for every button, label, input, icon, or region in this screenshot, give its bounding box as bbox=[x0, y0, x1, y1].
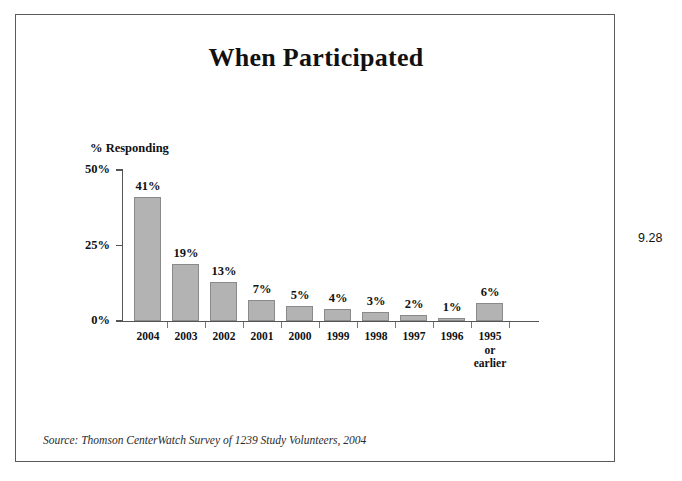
page-number: 9.28 bbox=[638, 231, 662, 245]
bar-value-label: 41% bbox=[123, 179, 173, 194]
y-axis-tick-label: 50% bbox=[64, 162, 110, 177]
x-axis-tick-mark bbox=[243, 322, 244, 328]
bar-group[interactable]: 2% bbox=[395, 121, 433, 321]
bar-chart-plot-area: 0%25%50%41%200419%200313%20027%20015%200… bbox=[16, 15, 616, 463]
y-axis-tick-mark bbox=[116, 169, 123, 170]
source-note: Source: Thomson CenterWatch Survey of 12… bbox=[43, 434, 366, 446]
x-axis-tick-mark bbox=[433, 322, 434, 328]
bar[interactable] bbox=[248, 300, 275, 321]
bar-value-label: 19% bbox=[161, 246, 211, 261]
bar-group[interactable]: 6% bbox=[471, 121, 509, 321]
bar[interactable] bbox=[286, 306, 313, 321]
y-axis-tick-mark bbox=[116, 320, 123, 321]
bar[interactable] bbox=[210, 282, 237, 321]
bar-group[interactable]: 3% bbox=[357, 121, 395, 321]
y-axis-tick-label: 0% bbox=[64, 313, 110, 328]
slide-frame: When Participated % Responding 0%25%50%4… bbox=[15, 14, 615, 462]
x-axis-tick-mark bbox=[167, 322, 168, 328]
x-axis-tick-label-line: 1995 bbox=[463, 330, 517, 344]
x-axis-tick-label-line: earlier bbox=[463, 357, 517, 371]
bar-group[interactable]: 19% bbox=[167, 121, 205, 321]
x-axis-line bbox=[122, 321, 539, 322]
bar[interactable] bbox=[438, 318, 465, 321]
bar[interactable] bbox=[476, 303, 503, 321]
x-axis-tick-mark bbox=[471, 322, 472, 328]
y-axis-tick-label: 25% bbox=[64, 238, 110, 253]
x-axis-tick-mark bbox=[319, 322, 320, 328]
y-axis-tick-mark bbox=[116, 245, 123, 246]
x-axis-tick-mark bbox=[357, 322, 358, 328]
x-axis-tick-label-line: or bbox=[463, 344, 517, 358]
bar[interactable] bbox=[324, 309, 351, 321]
x-axis-tick-label: 1995orearlier bbox=[463, 330, 517, 371]
x-axis-tick-mark bbox=[205, 322, 206, 328]
bar-value-label: 13% bbox=[199, 264, 249, 279]
bar[interactable] bbox=[172, 264, 199, 321]
bar[interactable] bbox=[362, 312, 389, 321]
bar[interactable] bbox=[400, 315, 427, 321]
x-axis-tick-mark bbox=[281, 322, 282, 328]
bar-value-label: 6% bbox=[465, 285, 515, 300]
bar-value-label: 1% bbox=[427, 300, 477, 315]
bar[interactable] bbox=[134, 197, 161, 321]
x-axis-tick-mark bbox=[395, 322, 396, 328]
x-axis-tick-mark bbox=[509, 322, 510, 328]
bar-group[interactable]: 41% bbox=[129, 121, 167, 321]
bar-group[interactable]: 4% bbox=[319, 121, 357, 321]
